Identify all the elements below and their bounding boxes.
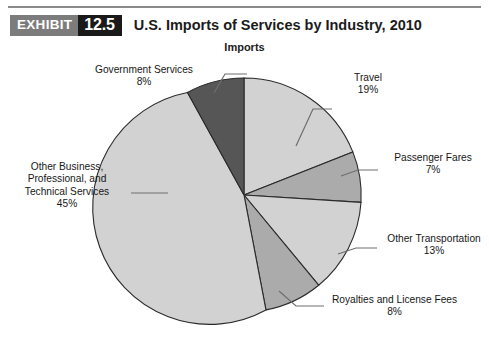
pie-label-other-transportation-percent: 13% [379, 245, 489, 257]
pie-label-other-transportation-text: Other Transportation [387, 233, 480, 244]
pie-chart: Government Services 8% Travel 19% Passen… [0, 0, 489, 337]
pie-label-passenger-fares-percent: 7% [381, 164, 485, 176]
pie-label-travel: Travel 19% [333, 72, 403, 97]
pie-label-royalties-license-fees-percent: 8% [313, 306, 476, 318]
pie-label-other-business-line2: Professional, and [28, 173, 107, 184]
pie-label-other-business-line1: Other Business, [31, 161, 103, 172]
exhibit-page: EXHIBIT 12.5 U.S. Imports of Services by… [0, 0, 489, 337]
pie-label-passenger-fares: Passenger Fares 7% [381, 152, 485, 177]
pie-label-royalties-license-fees-text: Royalties and License Fees [332, 294, 457, 305]
pie-label-passenger-fares-text: Passenger Fares [394, 152, 472, 163]
pie-label-other-business-professional-technical: Other Business, Professional, and Techni… [6, 161, 128, 211]
pie-label-government-services-percent: 8% [78, 76, 210, 88]
pie-label-other-business-percent: 45% [6, 198, 128, 210]
pie-label-royalties-license-fees: Royalties and License Fees 8% [313, 294, 476, 319]
pie-label-government-services-text: Government Services [95, 64, 193, 75]
pie-label-travel-percent: 19% [333, 84, 403, 96]
pie-label-government-services: Government Services 8% [78, 64, 210, 89]
pie-label-travel-text: Travel [354, 72, 382, 83]
pie-label-other-business-line3: Technical Services [25, 186, 109, 197]
pie-label-other-transportation: Other Transportation 13% [379, 233, 489, 258]
